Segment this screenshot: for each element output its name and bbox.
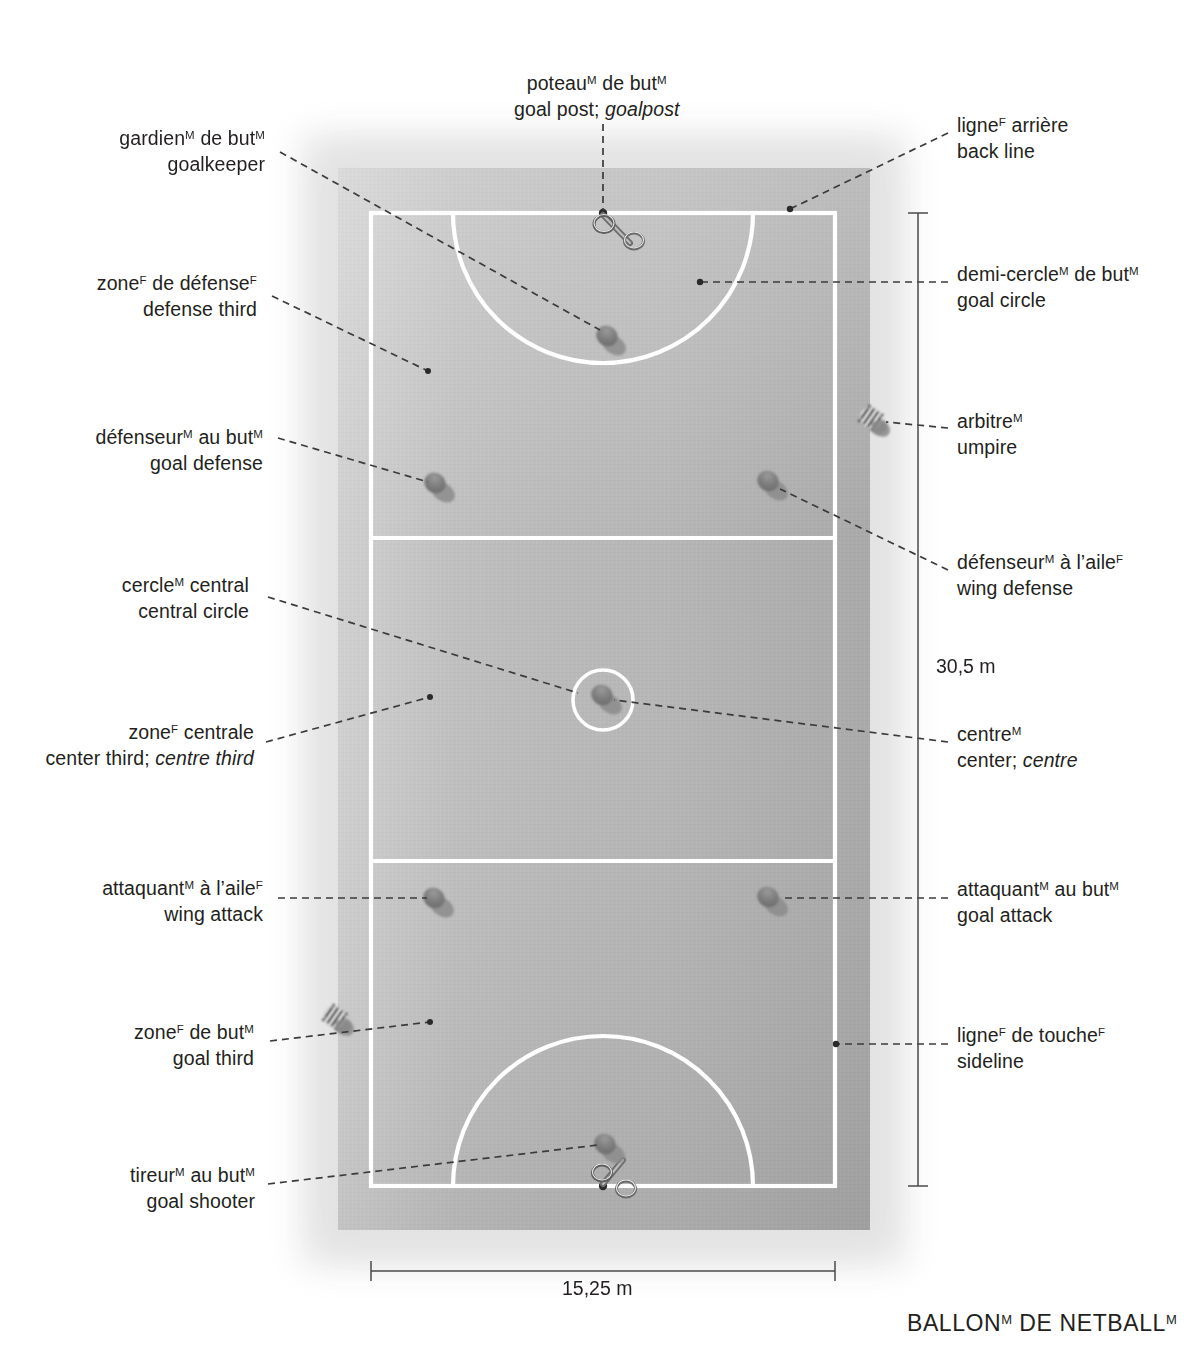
label-central-circle-en: central circle — [20, 599, 249, 625]
label-goal-attack: attaquantM au butM goal attack — [957, 874, 1119, 928]
label-goal-post-fr: poteauM de butM — [514, 68, 680, 97]
label-goal-third-fr: zoneF de butM — [20, 1017, 254, 1046]
label-umpire: arbitreM umpire — [957, 406, 1023, 460]
label-umpire-fr: arbitreM — [957, 406, 1023, 435]
court-illustration — [0, 0, 1187, 1349]
label-defense-third: zoneF de défenseF defense third — [20, 268, 257, 322]
label-goal-defense-en: goal defense — [20, 451, 263, 477]
label-goal-shooter-en: goal shooter — [20, 1189, 255, 1215]
label-defense-third-en: defense third — [20, 297, 257, 323]
label-sideline-fr: ligneF de toucheF — [957, 1020, 1105, 1049]
label-wing-defense: défenseurM à l’aileF wing defense — [957, 547, 1123, 601]
netball-court-diagram: poteauM de butM goal post; goalpost gard… — [0, 0, 1187, 1349]
label-wing-attack: attaquantM à l’aileF wing attack — [20, 873, 263, 927]
label-goalkeeper-fr: gardienM de butM — [20, 123, 265, 152]
label-center: centreM center; centre — [957, 719, 1078, 773]
label-goal-defense-fr: défenseurM au butM — [20, 422, 263, 451]
label-center-third-fr: zoneF centrale — [10, 717, 254, 746]
diagram-title: BALLONM DE NETBALLM — [907, 1310, 1177, 1337]
label-goal-circle: demi-cercleM de butM goal circle — [957, 259, 1139, 313]
label-goalkeeper: gardienM de butM goalkeeper — [20, 123, 265, 177]
diagram-title-word1: BALLON — [907, 1310, 1001, 1336]
label-central-circle-fr: cercleM central — [20, 570, 249, 599]
label-wing-defense-fr: défenseurM à l’aileF — [957, 547, 1123, 576]
dimension-length-label: 30,5 m — [936, 655, 996, 678]
diagram-title-word2: DE NETBALL — [1012, 1310, 1166, 1336]
diagram-title-sup1: M — [1001, 1312, 1012, 1327]
label-goal-shooter: tireurM au butM goal shooter — [20, 1160, 255, 1214]
label-back-line-fr: ligneF arrière — [957, 110, 1069, 139]
label-goal-third: zoneF de butM goal third — [20, 1017, 254, 1071]
label-goal-circle-fr: demi-cercleM de butM — [957, 259, 1139, 288]
label-wing-defense-en: wing defense — [957, 576, 1123, 602]
label-goal-attack-en: goal attack — [957, 903, 1119, 929]
label-center-third: zoneF centrale center third; centre thir… — [10, 717, 254, 771]
label-center-third-en: center third; centre third — [10, 746, 254, 772]
label-wing-attack-en: wing attack — [20, 902, 263, 928]
diagram-title-sup2: M — [1166, 1312, 1177, 1327]
label-wing-attack-fr: attaquantM à l’aileF — [20, 873, 263, 902]
label-central-circle: cercleM central central circle — [20, 570, 249, 624]
label-back-line: ligneF arrière back line — [957, 110, 1069, 164]
label-center-en: center; centre — [957, 748, 1078, 774]
label-defense-third-fr: zoneF de défenseF — [20, 268, 257, 297]
label-goal-post-en: goal post; goalpost — [514, 97, 680, 123]
label-sideline-en: sideline — [957, 1049, 1105, 1075]
label-goal-third-en: goal third — [20, 1046, 254, 1072]
dimension-width-label: 15,25 m — [562, 1277, 632, 1300]
label-goal-attack-fr: attaquantM au butM — [957, 874, 1119, 903]
label-goal-shooter-fr: tireurM au butM — [20, 1160, 255, 1189]
label-center-fr: centreM — [957, 719, 1078, 748]
label-umpire-en: umpire — [957, 435, 1023, 461]
label-goalkeeper-en: goalkeeper — [20, 152, 265, 178]
label-goal-post: poteauM de butM goal post; goalpost — [514, 68, 680, 122]
label-goal-defense: défenseurM au butM goal defense — [20, 422, 263, 476]
label-sideline: ligneF de toucheF sideline — [957, 1020, 1105, 1074]
label-back-line-en: back line — [957, 139, 1069, 165]
label-goal-circle-en: goal circle — [957, 288, 1139, 314]
